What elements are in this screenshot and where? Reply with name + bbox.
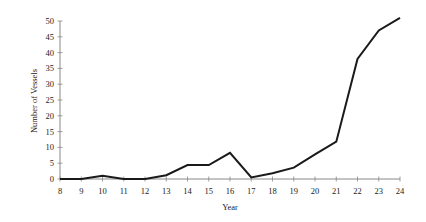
x-tick-label: 17	[247, 186, 256, 196]
y-tick-label: 35	[46, 63, 55, 73]
x-tick-label: 20	[311, 186, 320, 196]
y-axis: 05101520253035404550	[46, 16, 63, 184]
y-tick-label: 15	[46, 127, 55, 137]
y-tick-label: 40	[46, 48, 55, 58]
x-axis: 89101112131415161718192021222324	[58, 177, 405, 197]
x-tick-label: 13	[162, 186, 171, 196]
data-series	[60, 18, 400, 179]
y-tick-label: 0	[50, 174, 54, 184]
x-tick-label: 14	[183, 186, 192, 196]
y-tick-label: 25	[46, 95, 55, 105]
y-tick-label: 10	[46, 142, 55, 152]
x-tick-label: 18	[268, 186, 277, 196]
x-tick-label: 9	[79, 186, 83, 196]
x-tick-label: 11	[120, 186, 128, 196]
y-tick-label: 50	[46, 16, 55, 26]
y-axis-title: Number of Vessels	[29, 69, 39, 133]
x-tick-label: 16	[226, 186, 235, 196]
x-axis-title: Year	[222, 202, 238, 212]
line-chart: 05101520253035404550 8910111213141516171…	[0, 0, 426, 222]
x-tick-label: 22	[353, 186, 362, 196]
y-tick-label: 45	[46, 32, 55, 42]
y-tick-label: 20	[46, 111, 55, 121]
x-tick-label: 23	[375, 186, 384, 196]
x-tick-label: 10	[98, 186, 107, 196]
x-tick-label: 15	[205, 186, 214, 196]
y-tick-label: 30	[46, 79, 55, 89]
x-tick-label: 12	[141, 186, 150, 196]
y-tick-label: 5	[50, 158, 54, 168]
x-tick-label: 19	[290, 186, 299, 196]
x-tick-label: 21	[332, 186, 341, 196]
x-tick-label: 8	[58, 186, 62, 196]
x-tick-label: 24	[396, 186, 405, 196]
series-line	[60, 18, 400, 179]
